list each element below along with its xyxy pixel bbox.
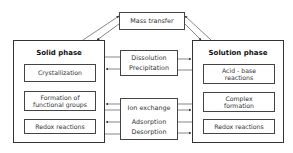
acid-base-box: Acid - base reactions [203, 64, 275, 84]
functional-groups-line1: Formation of [40, 94, 79, 102]
ion-exchange-box: Ion exchange Adsorption Desorption [120, 98, 178, 140]
mass-transfer-box: Mass transfer [119, 12, 185, 30]
solution-redox-label: Redox reactions [214, 123, 263, 131]
precipitation-label: Precipitation [121, 64, 177, 72]
crystallization-box: Crystallization [24, 64, 96, 82]
acid-base-line1: Acid - base [222, 67, 256, 75]
functional-groups-line2: functional groups [33, 101, 87, 109]
solution-phase-title: Solution phase [193, 49, 283, 57]
crystallization-label: Crystallization [38, 69, 82, 77]
adsorption-label: Adsorption [121, 118, 177, 126]
acid-base-line2: reactions [225, 74, 253, 82]
complex-formation-line2: formation [224, 102, 254, 110]
desorption-label: Desorption [121, 128, 177, 136]
solid-phase-title: Solid phase [14, 49, 104, 57]
complex-formation-line1: Complex [225, 95, 252, 103]
solution-phase-box: Solution phase Acid - base reactions Com… [192, 40, 284, 143]
solid-redox-box: Redox reactions [24, 119, 96, 134]
mass-transfer-label: Mass transfer [120, 17, 184, 25]
functional-groups-box: Formation of functional groups [24, 91, 96, 111]
solution-redox-box: Redox reactions [203, 119, 275, 134]
solid-phase-box: Solid phase Crystallization Formation of… [13, 40, 105, 143]
complex-formation-box: Complex formation [203, 92, 275, 112]
ion-exchange-label: Ion exchange [121, 104, 177, 112]
solid-redox-label: Redox reactions [35, 123, 84, 131]
dissolution-label: Dissolution [121, 54, 177, 62]
dissolution-precipitation-box: Dissolution Precipitation [120, 50, 178, 76]
